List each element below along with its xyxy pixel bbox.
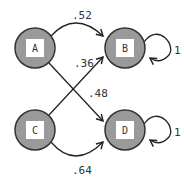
edge-c-to-d <box>51 142 103 156</box>
edge-label-c-b: .36 <box>74 57 94 70</box>
self-loop-b <box>144 34 171 61</box>
node-label-c: C <box>32 125 38 136</box>
node-label-d: D <box>122 125 128 136</box>
node-label-a: A <box>32 43 38 54</box>
node-d: D <box>105 110 145 150</box>
node-a: A <box>15 28 55 68</box>
node-b: B <box>105 28 145 68</box>
edge-label-b-b: 1 <box>174 44 181 57</box>
edge-label-d-d: 1 <box>174 126 181 139</box>
self-loop-d <box>144 116 171 143</box>
edge-label-a-d: .48 <box>88 87 108 100</box>
node-c: C <box>15 110 55 150</box>
node-label-b: B <box>122 43 128 54</box>
edge-label-c-d: .64 <box>72 164 92 177</box>
edge-a-to-b <box>51 23 103 36</box>
edge-label-a-b: .52 <box>72 9 92 22</box>
markov-diagram: .52 .36 .48 .64 1 1 A B C D <box>0 0 184 179</box>
